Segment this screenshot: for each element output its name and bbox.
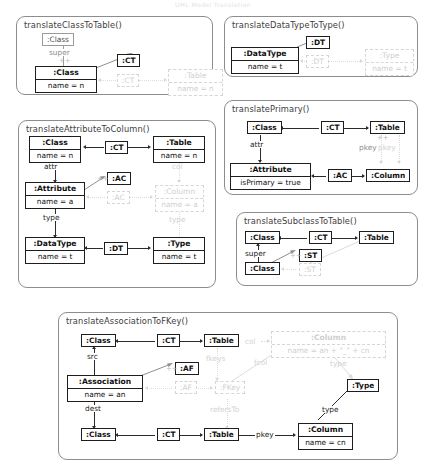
node-src-table[interactable]: :Table	[204, 334, 239, 347]
node-type[interactable]: :Type	[347, 379, 379, 392]
node-ct-corr-dest[interactable]: :CT	[157, 428, 180, 441]
node-src-class[interactable]: :Class	[81, 334, 116, 347]
edge-ct-to-table-arrowhead	[164, 78, 167, 82]
edge-association-to-af-arrowhead	[145, 386, 148, 390]
node-sup-class[interactable]: :Class	[42, 33, 74, 46]
edge-ct-to-table	[344, 128, 368, 129]
node-dt-corr-top[interactable]: :DT	[306, 36, 330, 49]
node-class[interactable]: :Class name = n	[35, 66, 97, 93]
edge-ct-to-src-table-arrowhead	[200, 339, 203, 343]
node-st-corr-new[interactable]: :ST	[299, 263, 321, 276]
rule-panel-translate-attribute-to-column[interactable]: translateAttributeToColumn() :Class name…	[18, 120, 216, 288]
node-label: :Table	[371, 122, 404, 133]
node-label: :Table	[169, 70, 222, 82]
node-label: :DT	[307, 56, 328, 67]
node-label: :Table	[205, 429, 238, 440]
edge-attribute-to-ac-arrowhead	[86, 195, 89, 199]
edge-ac-to-column-arrowhead	[362, 174, 365, 178]
node-pkey-column[interactable]: :Column name = cn	[298, 423, 353, 450]
edge-ct-to-table	[332, 238, 357, 239]
edge-label-refersto: refersTo	[209, 406, 240, 413]
edge-dt-to-type	[126, 248, 149, 249]
node-attr: isPrimary = true	[231, 176, 310, 189]
node-label: :Column	[299, 424, 352, 436]
node-sub-class[interactable]: :Class	[245, 262, 280, 275]
node-ct-corr-top[interactable]: :CT	[117, 54, 140, 67]
node-datatype[interactable]: :DataType name = t	[25, 237, 85, 264]
rule-title: translatePrimary()	[232, 104, 309, 114]
edge-ac-to-attribute-arrowhead	[311, 174, 314, 178]
node-ac-corr-new[interactable]: :AC	[107, 191, 130, 204]
page-header: UML Model Translation	[0, 0, 426, 9]
edge-pkey-ghost-line	[399, 135, 400, 163]
node-fkey[interactable]: :FKey	[215, 381, 245, 394]
node-label: :AC	[108, 192, 129, 203]
node-class[interactable]: :Class name = n	[29, 136, 81, 163]
edge-attribute-to-ac	[87, 197, 105, 198]
node-dest-table[interactable]: :Table	[204, 428, 239, 441]
rule-panel-translate-class-to-table[interactable]: translateClassToTable() :Class super ++ …	[16, 16, 213, 95]
edge-label-pkey: pkey	[255, 431, 275, 438]
edge-label-col: col	[171, 163, 184, 170]
edge-label-attr: attr	[249, 141, 264, 148]
rule-panel-translate-primary[interactable]: translatePrimary() :Class :CT :Table att…	[224, 100, 418, 195]
node-column[interactable]: :Column	[366, 169, 410, 182]
node-dest-class[interactable]: :Class	[81, 428, 116, 441]
edge-pkey-arrowhead	[293, 433, 296, 437]
node-label: :Class	[43, 34, 73, 45]
node-attr: name = a	[156, 198, 203, 211]
edge-dt-to-type	[327, 61, 360, 62]
node-label: :Attribute	[26, 183, 84, 195]
node-label: :Type	[366, 50, 413, 62]
node-ct-corr[interactable]: :CT	[105, 141, 128, 154]
node-label: :Attribute	[231, 164, 310, 176]
node-type[interactable]: :Type name = t	[365, 49, 414, 76]
node-super-class[interactable]: :Class	[245, 231, 280, 244]
node-af-corr-new[interactable]: :AF	[175, 381, 197, 394]
node-table[interactable]: :Table	[370, 121, 405, 134]
node-attribute[interactable]: :Attribute name = a	[25, 182, 85, 209]
node-table[interactable]: :Table name = n	[153, 136, 205, 163]
node-dt-corr-new[interactable]: :DT	[306, 55, 329, 68]
edge-ct-to-table-arrowhead	[366, 126, 369, 130]
node-ct-corr-src[interactable]: :CT	[157, 334, 180, 347]
rule-panel-translate-association-to-fkey[interactable]: translateAssociationToFKey() :Class :CT …	[58, 312, 398, 460]
node-column[interactable]: :Column name = a	[155, 185, 204, 212]
node-label: :AF	[176, 363, 198, 374]
node-type[interactable]: :Type name = t	[153, 237, 205, 264]
node-st-corr-top[interactable]: :ST	[299, 249, 322, 262]
node-new-column[interactable]: :Column name = an + "_" + cn	[271, 331, 386, 358]
node-attr: name = n	[154, 149, 204, 162]
node-af-corr-top[interactable]: :AF	[175, 362, 199, 375]
rule-panel-translate-subclass-to-table[interactable]: translateSubclassToTable() :Class :CT :T…	[236, 212, 418, 286]
node-label: :Table	[154, 137, 204, 149]
node-label: :Table	[360, 232, 393, 243]
node-table[interactable]: :Table name = n	[168, 69, 223, 96]
node-ct-corr-new[interactable]: :CT	[117, 74, 139, 87]
node-label: :FKey	[216, 382, 244, 393]
node-class[interactable]: :Class	[247, 121, 282, 134]
node-ac-corr-top[interactable]: :AC	[107, 172, 131, 185]
rule-panel-translate-datatype-to-type[interactable]: translateDataTypeToType() :DT :DataType …	[224, 16, 418, 77]
edge-subclass-to-st	[282, 269, 296, 270]
edge-label-type-ghost: type	[168, 216, 187, 223]
node-label: :Class	[82, 429, 115, 440]
edge-label-fkeys: fkeys	[205, 355, 226, 362]
node-label: :CT	[118, 75, 138, 86]
rule-title: translateSubclassToTable()	[244, 216, 357, 226]
node-ct-corr[interactable]: :CT	[309, 231, 332, 244]
node-ac-corr[interactable]: :AC	[328, 169, 352, 182]
node-datatype[interactable]: :DataType name = t	[231, 47, 299, 74]
node-ct-corr[interactable]: :CT	[321, 121, 344, 134]
node-dt-corr[interactable]: :DT	[104, 242, 128, 255]
edge-label-type: type	[42, 214, 61, 221]
node-association[interactable]: :Association name = an	[67, 375, 143, 402]
node-attr: name = n	[36, 79, 96, 92]
edge-label-type-upper: type	[329, 360, 348, 367]
node-label: :CT	[158, 429, 179, 440]
edge-ct-to-src-table	[180, 341, 202, 342]
edge-label-super: super	[244, 250, 267, 257]
node-label: :CT	[106, 142, 127, 153]
node-table[interactable]: :Table	[359, 231, 394, 244]
node-attribute[interactable]: :Attribute isPrimary = true	[230, 163, 311, 190]
